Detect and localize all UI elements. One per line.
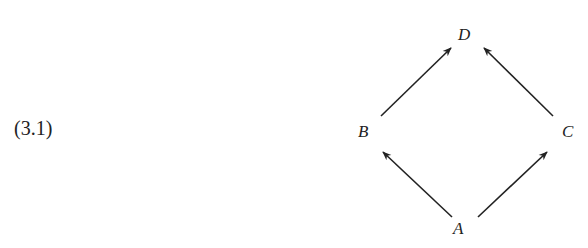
arrow-b-to-d [381,48,451,116]
arrow-a-to-b [383,152,452,217]
arrow-a-to-c [478,152,547,217]
arrow-c-to-d [484,48,553,116]
arrows-layer [0,0,588,248]
